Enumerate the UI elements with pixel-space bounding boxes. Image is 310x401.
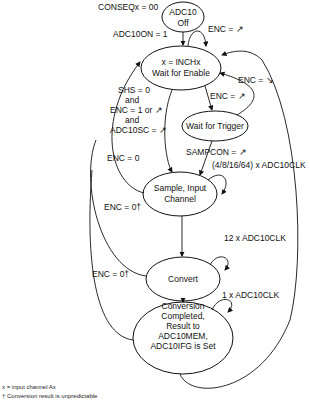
svg-text:ENC = 1 or ↗: ENC = 1 or ↗	[110, 105, 163, 115]
svg-text:1 x ADC10CLK: 1 x ADC10CLK	[222, 290, 279, 300]
svg-text:and: and	[125, 95, 139, 105]
svg-text:ADC10: ADC10	[169, 7, 197, 17]
svg-text:ENC = 0: ENC = 0	[107, 153, 140, 163]
state-wait-for-enable: x = INCHx Wait for Enable	[141, 46, 221, 90]
svg-text:ADC10MEM,: ADC10MEM,	[158, 331, 208, 341]
svg-text:Sample, Input: Sample, Input	[154, 183, 207, 193]
svg-text:ENC = 0†: ENC = 0†	[104, 202, 141, 212]
svg-text:ENC = ↗: ENC = ↗	[208, 24, 244, 34]
svg-text:x = INCHx: x = INCHx	[162, 57, 202, 67]
svg-text:Wait for Trigger: Wait for Trigger	[186, 121, 244, 131]
svg-text:ADC10IFG is Set: ADC10IFG is Set	[150, 341, 216, 351]
state-conversion-completed: Conversion Completed, Result to ADC10MEM…	[133, 301, 233, 374]
svg-text:ADC10SC = ↗: ADC10SC = ↗	[110, 125, 167, 135]
svg-text:(4/8/16/64) x ADC10CLK: (4/8/16/64) x ADC10CLK	[212, 160, 306, 170]
svg-text:CONSEQx = 00: CONSEQx = 00	[98, 2, 159, 12]
transition-labels: CONSEQx = 00 ADC10ON = 1 ENC = ↗ ENC = ↘…	[92, 2, 306, 300]
svg-text:Completed,: Completed,	[161, 311, 204, 321]
svg-text:12 x ADC10CLK: 12 x ADC10CLK	[224, 233, 286, 243]
svg-text:Off: Off	[177, 18, 189, 28]
state-adc10-off: ADC10 Off	[162, 2, 204, 32]
svg-text:Wait for Enable: Wait for Enable	[152, 68, 210, 78]
svg-text:ENC = 0†: ENC = 0†	[92, 269, 129, 279]
svg-text:Result to: Result to	[166, 321, 200, 331]
svg-text:ENC = ↘: ENC = ↘	[238, 75, 274, 85]
svg-text:Convert: Convert	[168, 274, 198, 284]
svg-text:ENC = ↗: ENC = ↗	[210, 91, 246, 101]
svg-text:SHS = 0: SHS = 0	[118, 85, 150, 95]
svg-text:SAMPCON = ↗: SAMPCON = ↗	[186, 147, 247, 157]
state-sample-input-channel: Sample, Input Channel	[143, 172, 217, 216]
svg-text:and: and	[125, 115, 139, 125]
state-convert: Convert	[146, 257, 220, 301]
state-diagram: ADC10 Off x = INCHx Wait for Enable Wait…	[0, 0, 310, 401]
footnote-dagger: † Conversion result is unpredictable	[2, 393, 97, 399]
state-wait-for-trigger: Wait for Trigger	[182, 111, 248, 141]
svg-text:ADC10ON = 1: ADC10ON = 1	[113, 29, 168, 39]
footnote-x: x = input channel Ax	[2, 384, 56, 390]
svg-text:Channel: Channel	[164, 194, 196, 204]
svg-text:Conversion: Conversion	[162, 301, 205, 311]
